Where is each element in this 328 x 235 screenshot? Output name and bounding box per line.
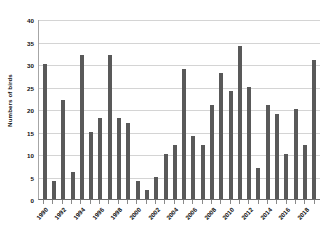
y-axis-tick-label: 40 — [27, 17, 34, 24]
x-axis-tick-label: 2006 — [184, 206, 198, 221]
x-axis-tick-mark — [267, 200, 268, 204]
x-axis-tick-label: 2008 — [202, 206, 216, 221]
bar — [182, 69, 186, 200]
x-axis-tick-label: 1998 — [109, 206, 123, 221]
x-axis-tick-mark — [276, 200, 277, 204]
bar — [164, 154, 168, 199]
bar — [275, 114, 279, 200]
bar — [256, 168, 260, 200]
x-axis-tick-label: 2016 — [277, 206, 291, 221]
x-axis-label-slot — [70, 205, 74, 235]
x-axis-label-slot — [51, 205, 55, 235]
bar — [191, 136, 195, 199]
x-axis-label-slot: 2008 — [210, 205, 214, 235]
x-axis-label-slot: 2002 — [154, 205, 158, 235]
x-axis-tick-label: 1996 — [90, 206, 104, 221]
y-axis-tick-label: 15 — [27, 129, 34, 136]
y-axis-tick-labels: 0510152025303540 — [16, 20, 36, 200]
x-axis-tick-mark — [174, 200, 175, 204]
bar — [247, 87, 251, 200]
bar — [312, 60, 316, 200]
bar — [210, 105, 214, 200]
bar — [229, 91, 233, 199]
bar — [43, 64, 47, 199]
x-axis-tick-mark — [43, 200, 44, 204]
x-axis-label-slot — [144, 205, 148, 235]
x-axis-tick-mark — [71, 200, 72, 204]
x-axis-label-slot — [163, 205, 167, 235]
x-axis-tick-mark — [248, 200, 249, 204]
x-axis-label-slot — [126, 205, 130, 235]
x-axis-label-slot — [256, 205, 260, 235]
bar — [71, 172, 75, 199]
x-axis-tick-mark — [192, 200, 193, 204]
x-axis-label-slot: 2012 — [247, 205, 251, 235]
bar — [108, 55, 112, 199]
bar — [154, 177, 158, 200]
x-axis-tick-label: 1990 — [34, 206, 48, 221]
x-axis-label-slot: 2004 — [172, 205, 176, 235]
y-axis-tick-label: 0 — [31, 197, 34, 204]
bar — [52, 181, 56, 199]
x-axis-label-slot: 2016 — [284, 205, 288, 235]
x-axis-tick-mark — [286, 200, 287, 204]
x-axis-tick-mark — [99, 200, 100, 204]
x-axis-tick-mark — [304, 200, 305, 204]
x-axis-tick-mark — [164, 200, 165, 204]
x-axis-tick-mark — [90, 200, 91, 204]
y-axis-title-label: Numbers of birds — [6, 74, 13, 127]
x-axis-tick-label: 2000 — [128, 206, 142, 221]
bar-series — [39, 20, 320, 199]
bar — [89, 132, 93, 200]
x-axis-label-slot — [238, 205, 242, 235]
x-axis-label-slot: 2006 — [191, 205, 195, 235]
x-axis-tick-mark — [211, 200, 212, 204]
x-axis-label-slot — [88, 205, 92, 235]
x-axis-label-slot: 2000 — [135, 205, 139, 235]
plot-area — [38, 20, 320, 200]
x-axis-tick-label: 1992 — [53, 206, 67, 221]
bar — [136, 181, 140, 199]
x-axis-label-slot — [275, 205, 279, 235]
x-axis-label-slot — [219, 205, 223, 235]
x-axis-label-slot: 1992 — [60, 205, 64, 235]
x-axis-tick-mark — [258, 200, 259, 204]
y-axis-tick-label: 10 — [27, 152, 34, 159]
bar — [219, 73, 223, 199]
y-axis-tick-label: 35 — [27, 39, 34, 46]
x-axis-label-slot — [182, 205, 186, 235]
x-axis-tick-mark — [202, 200, 203, 204]
x-axis-label-slot — [312, 205, 316, 235]
bar — [284, 154, 288, 199]
y-axis-tick-label: 5 — [31, 174, 34, 181]
x-axis-tick-mark — [155, 200, 156, 204]
x-axis-tick-label: 2002 — [146, 206, 160, 221]
bar — [238, 46, 242, 199]
x-axis-tick-label: 2018 — [296, 206, 310, 221]
x-axis-label-slot — [200, 205, 204, 235]
bar — [266, 105, 270, 200]
x-axis-tick-mark — [127, 200, 128, 204]
x-axis-tick-labels: 1990199219941996199820002002200420062008… — [38, 205, 320, 235]
x-axis-tick-mark — [62, 200, 63, 204]
x-axis-tick-mark — [108, 200, 109, 204]
bar — [117, 118, 121, 199]
bar — [80, 55, 84, 199]
x-axis-label-slot: 1990 — [42, 205, 46, 235]
y-axis-tick-label: 20 — [27, 107, 34, 114]
x-axis-tick-label: 2010 — [221, 206, 235, 221]
x-axis-label-slot: 2010 — [228, 205, 232, 235]
x-axis-tick-label: 2012 — [240, 206, 254, 221]
x-axis-label-slot: 2014 — [266, 205, 270, 235]
x-axis-tick-label: 2014 — [258, 206, 272, 221]
bar — [294, 109, 298, 199]
bar — [145, 190, 149, 199]
x-axis-tick-mark — [80, 200, 81, 204]
y-axis-tick-label: 25 — [27, 84, 34, 91]
x-axis-tick-label: 2004 — [165, 206, 179, 221]
x-axis-tick-label: 1994 — [72, 206, 86, 221]
x-axis-tick-mark — [220, 200, 221, 204]
x-axis-label-slot: 1996 — [98, 205, 102, 235]
x-axis-label-slot — [107, 205, 111, 235]
x-axis-label-slot: 1994 — [79, 205, 83, 235]
